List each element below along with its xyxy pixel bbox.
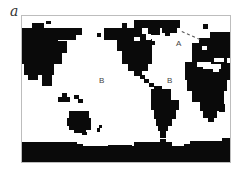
land-block bbox=[77, 144, 83, 147]
land-block bbox=[108, 145, 132, 147]
land-block bbox=[58, 34, 76, 40]
water-block bbox=[146, 34, 151, 40]
land-block bbox=[151, 41, 155, 45]
water-block bbox=[202, 46, 207, 50]
water-block bbox=[227, 58, 231, 63]
land-block bbox=[46, 21, 51, 24]
land-block bbox=[78, 99, 83, 103]
land-block bbox=[165, 32, 170, 36]
land-block bbox=[192, 43, 231, 63]
land-block bbox=[82, 132, 87, 135]
land-block bbox=[219, 104, 225, 112]
land-block bbox=[208, 117, 214, 122]
land-block bbox=[97, 128, 100, 132]
land-block bbox=[122, 23, 127, 29]
land-block bbox=[22, 28, 58, 42]
land-block bbox=[122, 50, 152, 64]
land-block bbox=[222, 138, 231, 142]
land-block bbox=[28, 74, 38, 80]
land-block bbox=[160, 130, 166, 138]
land-block bbox=[32, 23, 44, 29]
land-block bbox=[97, 33, 101, 37]
world-map: A B B bbox=[21, 15, 231, 163]
land-block bbox=[134, 142, 158, 147]
land-block bbox=[22, 142, 77, 147]
land-block bbox=[42, 74, 52, 86]
water-block bbox=[213, 68, 219, 72]
water-block bbox=[214, 58, 224, 62]
panel-label: a bbox=[10, 4, 18, 18]
land-block bbox=[150, 27, 160, 35]
land-block bbox=[22, 146, 231, 163]
land-block bbox=[158, 142, 172, 146]
land-block bbox=[58, 97, 70, 102]
region-label-a: A bbox=[176, 40, 181, 48]
land-block bbox=[203, 24, 208, 29]
region-label-b-atlantic: B bbox=[167, 77, 172, 85]
water-block bbox=[134, 37, 140, 41]
dashed-connector-line bbox=[182, 31, 200, 40]
region-label-b-pacific: B bbox=[99, 77, 104, 85]
land-block bbox=[62, 93, 67, 97]
